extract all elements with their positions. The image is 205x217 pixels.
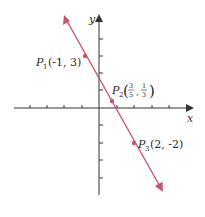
x-axis-label: x [187, 112, 194, 125]
label-p2: P 2 ( 3 5 , 1 3 ) [111, 82, 155, 100]
point-p2 [110, 99, 114, 103]
svg-text:1: 1 [142, 82, 146, 90]
svg-text:3: 3 [142, 91, 146, 99]
svg-text:,: , [136, 87, 139, 97]
point-p3 [132, 141, 136, 145]
label-p1: P 1 (-1, 3) [35, 56, 81, 71]
y-axis-label: y [88, 13, 96, 26]
svg-text:(: ( [123, 82, 129, 100]
coordinate-plane: x y P 1 (-1, 3) P 2 ( 3 5 [0, 0, 205, 217]
label-p3: P 3 (2, -2) [137, 138, 183, 153]
svg-text:3: 3 [145, 145, 149, 153]
x-axis: x [14, 105, 194, 125]
svg-text:): ) [149, 82, 155, 100]
svg-text:1: 1 [43, 63, 47, 71]
svg-text:(-1, 3): (-1, 3) [48, 56, 81, 69]
svg-text:3: 3 [129, 82, 133, 90]
svg-text:(2, -2): (2, -2) [150, 138, 183, 151]
y-axis: y [88, 13, 103, 195]
point-p1 [83, 54, 87, 58]
svg-text:5: 5 [129, 91, 133, 99]
